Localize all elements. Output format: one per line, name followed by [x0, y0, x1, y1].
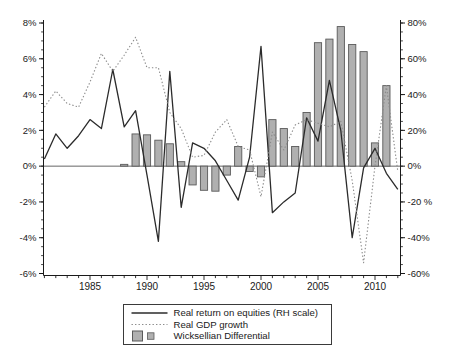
right-axis-label: 80%: [408, 17, 428, 28]
x-axis-label: 1990: [136, 281, 159, 292]
legend-small-square-icon: [148, 333, 155, 340]
legend-label: Real return on equities (RH scale): [174, 307, 319, 318]
wicksellian-bar-1995: [200, 166, 207, 190]
right-axis-label: 60%: [408, 53, 428, 64]
wicksellian-bar-1989: [132, 134, 139, 166]
wicksellian-bar-2009: [360, 52, 367, 167]
left-axis-label: 8%: [23, 17, 37, 28]
wicksellian-bar-2000: [257, 166, 264, 177]
x-axis-label: 2010: [364, 281, 387, 292]
wicksellian-bar-1996: [212, 166, 219, 191]
legend-label: Wicksellian Differential: [174, 330, 270, 341]
wicksellian-bar-2005: [314, 43, 321, 166]
wicksellian-bar-2002: [280, 129, 287, 167]
wicksellian-bar-1998: [235, 146, 242, 166]
right-axis-label: -20 %: [408, 196, 433, 207]
x-axis-label: 2005: [307, 281, 330, 292]
right-axis-label: 40%: [408, 89, 428, 100]
x-axis-label: 1995: [193, 281, 216, 292]
left-axis-label: -2%: [20, 196, 37, 207]
wicksellian-differential-figure: 8%6%4%2%0%-2%-4%-6%80%60%40%20%0%-20 %-4…: [0, 0, 450, 361]
left-axis-label: 0%: [23, 160, 37, 171]
left-axis-label: 2%: [23, 125, 37, 136]
left-axis-label: -6%: [20, 268, 37, 279]
wicksellian-bar-2006: [326, 39, 333, 166]
left-axis-label: 6%: [23, 53, 37, 64]
right-axis-label: 0%: [408, 160, 422, 171]
right-axis-label: -60%: [408, 268, 431, 279]
right-axis-label: -40%: [408, 232, 431, 243]
left-axis-label: -4%: [20, 232, 37, 243]
wicksellian-bar-2008: [349, 44, 356, 166]
wicksellian-bar-1994: [189, 166, 196, 185]
wicksellian-bar-2003: [292, 146, 299, 166]
x-axis-label: 2000: [250, 281, 273, 292]
wicksellian-bar-1993: [178, 162, 185, 166]
wicksellian-bar-2011: [383, 86, 390, 167]
wicksellian-bar-2001: [269, 120, 276, 167]
wicksellian-bar-1992: [166, 144, 173, 166]
legend-label: Real GDP growth: [174, 319, 248, 330]
chart-canvas: 8%6%4%2%0%-2%-4%-6%80%60%40%20%0%-20 %-4…: [0, 0, 450, 361]
wicksellian-bar-1991: [155, 140, 162, 166]
wicksellian-bar-1997: [223, 166, 230, 175]
right-axis-label: 20%: [408, 125, 428, 136]
wicksellian-bar-1988: [121, 164, 128, 166]
left-axis-label: 4%: [23, 89, 37, 100]
x-axis-label: 1985: [79, 281, 102, 292]
wicksellian-bar-2007: [337, 27, 344, 167]
legend-large-square-icon: [133, 331, 143, 341]
